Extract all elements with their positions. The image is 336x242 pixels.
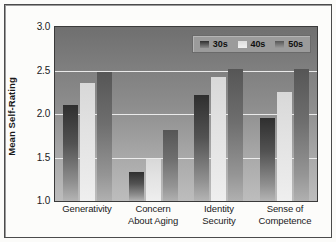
y-axis-tick-label: 2.5 xyxy=(22,64,50,75)
x-axis-tick-label: Generativity xyxy=(54,203,120,226)
x-axis-tick-label: IdentitySecurity xyxy=(186,203,252,226)
legend-swatch-icon xyxy=(238,41,247,48)
bar xyxy=(97,72,112,201)
y-axis-ticks: 3.02.52.01.51.0 xyxy=(18,0,50,242)
bar xyxy=(129,172,144,201)
x-axis-tick-label-line: Generativity xyxy=(62,203,112,214)
x-axis-tick-label-line: Concern xyxy=(135,203,170,214)
x-axis-tick-label: ConcernAbout Aging xyxy=(120,203,186,226)
legend: 30s40s50s xyxy=(192,35,311,53)
x-axis-tick-label-line: About Aging xyxy=(120,215,186,227)
x-axis-tick-label: Sense ofCompetence xyxy=(252,203,318,226)
bar-group xyxy=(252,27,318,201)
bar xyxy=(294,69,309,201)
x-axis-tick-label-line: Sense of xyxy=(267,203,304,214)
legend-item: 50s xyxy=(275,39,303,49)
x-axis-tick-label-line: Security xyxy=(186,215,252,227)
bar-group xyxy=(121,27,187,201)
legend-swatch-icon xyxy=(200,41,209,48)
bar xyxy=(211,77,226,201)
bar xyxy=(146,159,161,201)
bar-group xyxy=(55,27,121,201)
bar xyxy=(277,92,292,201)
x-axis-tick-label-line: Competence xyxy=(252,215,318,227)
y-axis-title-text: Mean Self-Rating xyxy=(6,77,17,156)
legend-item: 40s xyxy=(238,39,266,49)
bar xyxy=(228,69,243,201)
bar-groups xyxy=(55,27,317,201)
bar xyxy=(260,118,275,201)
figure-root: Mean Self-Rating 3.02.52.01.51.0 30s40s5… xyxy=(0,0,336,242)
legend-item-label: 30s xyxy=(213,39,228,49)
x-axis-ticks: GenerativityConcernAbout AgingIdentitySe… xyxy=(54,203,318,226)
legend-swatch-icon xyxy=(275,41,284,48)
bar xyxy=(194,95,209,201)
y-axis-tick-label: 3.0 xyxy=(22,21,50,32)
y-axis-tick-label: 2.0 xyxy=(22,108,50,119)
x-axis-tick-label-line: Identity xyxy=(204,203,234,214)
bar-group xyxy=(186,27,252,201)
legend-item-label: 50s xyxy=(288,39,303,49)
y-axis-tick-label: 1.5 xyxy=(22,151,50,162)
bar xyxy=(63,105,78,201)
bar xyxy=(163,130,178,201)
legend-item-label: 40s xyxy=(251,39,266,49)
y-axis-tick-label: 1.0 xyxy=(22,195,50,206)
bar xyxy=(80,83,95,201)
legend-item: 30s xyxy=(200,39,228,49)
plot-area: 30s40s50s xyxy=(54,26,318,202)
